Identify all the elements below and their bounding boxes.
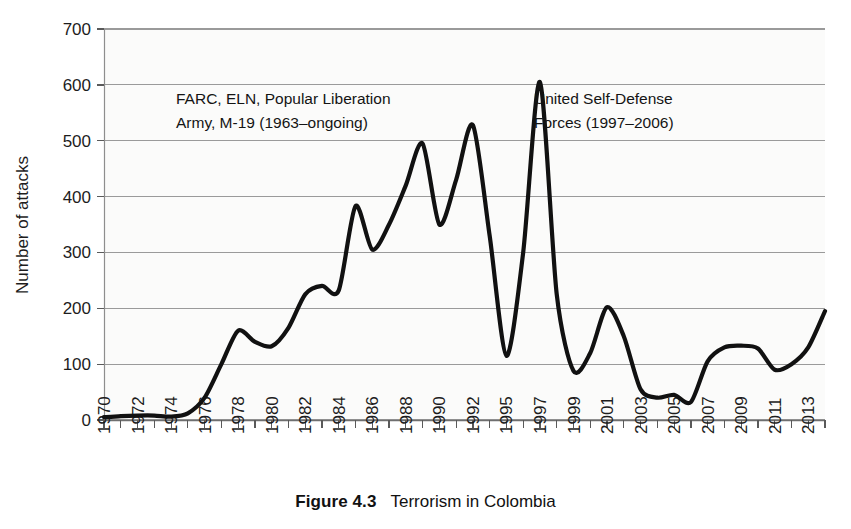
y-axis-tick-labels: 0100200300400500600700 — [63, 20, 91, 430]
x-axis-tick-label: 1995 — [497, 396, 516, 434]
x-axis-tick-label: 2013 — [799, 396, 818, 434]
x-axis-tick-label: 1999 — [565, 396, 584, 434]
terrorism-line-chart: 0100200300400500600700 19701972197419761… — [0, 0, 851, 529]
y-axis-tick-label: 100 — [63, 355, 91, 374]
x-axis-tick-label: 1978 — [229, 396, 248, 434]
x-axis-tick-label: 2001 — [598, 396, 617, 434]
x-axis-tick-label: 2007 — [699, 396, 718, 434]
x-axis-tick-label: 1984 — [330, 396, 349, 434]
y-axis-tick-label: 200 — [63, 299, 91, 318]
y-axis-tick-label: 0 — [82, 411, 91, 430]
figure-container: 0100200300400500600700 19701972197419761… — [0, 0, 851, 529]
figure-caption-label: Figure 4.3 — [295, 492, 376, 511]
y-axis-tick-marks — [97, 29, 104, 420]
x-axis-tick-label: 1980 — [263, 396, 282, 434]
y-axis-tick-label: 600 — [63, 76, 91, 95]
x-axis-tick-label: 2011 — [766, 397, 785, 434]
farc-annotation-line1: FARC, ELN, Popular Liberation — [176, 90, 391, 107]
x-axis-tick-label: 1997 — [531, 396, 550, 434]
y-axis-tick-label: 300 — [63, 243, 91, 262]
y-axis-title: Number of attacks — [13, 156, 32, 294]
plot-area-background — [104, 29, 825, 420]
x-axis-tick-label: 1990 — [430, 396, 449, 434]
figure-caption-title: Terrorism in Colombia — [390, 492, 555, 511]
y-axis-tick-label: 400 — [63, 188, 91, 207]
auc-annotation-line2: Forces (1997–2006) — [534, 114, 674, 131]
x-axis-tick-label: 1986 — [363, 396, 382, 434]
y-axis-tick-label: 700 — [63, 20, 91, 39]
x-axis-tick-label: 2003 — [632, 396, 651, 434]
y-axis-tick-label: 500 — [63, 132, 91, 151]
x-axis-tick-label: 1988 — [397, 396, 416, 434]
x-axis-tick-label: 1982 — [296, 396, 315, 434]
auc-annotation-line1: United Self-Defense — [534, 90, 673, 107]
x-axis-tick-label: 1976 — [196, 396, 215, 434]
x-axis-tick-label: 1992 — [464, 396, 483, 434]
figure-caption: Figure 4.3Terrorism in Colombia — [0, 492, 851, 512]
x-axis-tick-label: 2009 — [732, 396, 751, 434]
farc-annotation-line2: Army, M-19 (1963–ongoing) — [176, 114, 368, 131]
